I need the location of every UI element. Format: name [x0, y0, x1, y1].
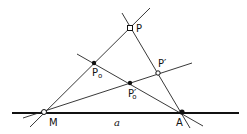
- line-p0-a: [77, 54, 203, 126]
- point-p: [128, 26, 133, 31]
- label-p0: Po: [92, 67, 102, 80]
- label-a: A: [176, 117, 183, 128]
- point-a: [179, 109, 184, 114]
- label-pprime: P′: [158, 58, 167, 69]
- projective-diagram: M A P Po P′ P′o a: [0, 0, 247, 134]
- label-p0prime: P′o: [128, 88, 137, 101]
- point-p0: [92, 61, 96, 65]
- point-pprime: [156, 71, 160, 75]
- label-a-line: a: [114, 117, 120, 128]
- label-m: M: [49, 117, 58, 128]
- point-p0prime: [128, 81, 132, 85]
- label-p: P: [136, 23, 142, 34]
- point-m: [42, 110, 47, 115]
